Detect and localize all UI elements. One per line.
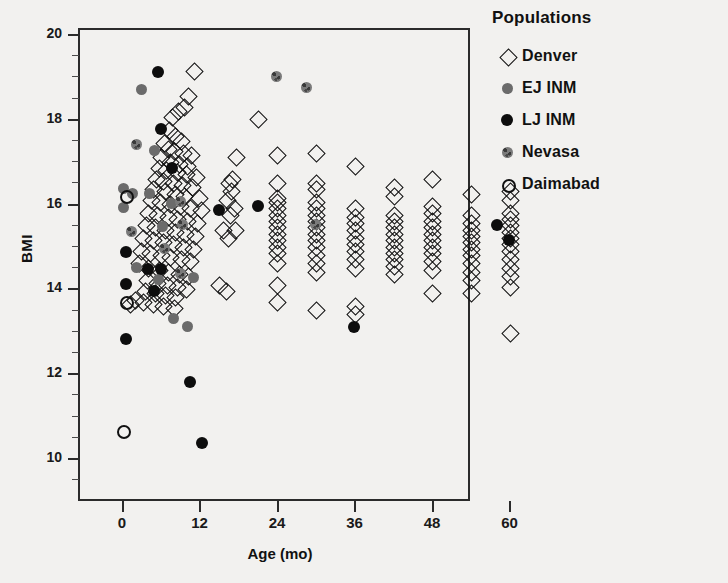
x-tick-label: 36: [331, 514, 377, 531]
data-point-lj-inm: [491, 219, 503, 231]
data-point-nevasa: [159, 243, 170, 254]
y-tick: [68, 119, 80, 121]
data-point-denver: [501, 325, 519, 343]
y-tick: [68, 34, 80, 36]
scatter-plot: BMI Age (mo) 101214161820 01224364860 Po…: [0, 0, 728, 583]
data-point-nevasa: [301, 82, 312, 93]
y-minor-tick: [72, 352, 79, 353]
legend: Populations DenverEJ INMLJ INMNevasaDaim…: [492, 8, 722, 200]
legend-item-lj-inm[interactable]: LJ INM: [492, 104, 722, 136]
y-minor-tick: [72, 267, 79, 268]
data-point-nevasa: [126, 226, 137, 237]
x-axis-title: Age (mo): [190, 545, 370, 562]
x-tick: [432, 501, 434, 512]
x-tick-label: 0: [99, 514, 145, 531]
data-point-lj-inm: [120, 278, 132, 290]
legend-item-ej-inm[interactable]: EJ INM: [492, 72, 722, 104]
y-minor-tick: [72, 416, 79, 417]
y-minor-tick: [72, 161, 79, 162]
data-point-lj-inm: [252, 200, 264, 212]
data-point-nevasa: [131, 139, 142, 150]
legend-label: Nevasa: [522, 143, 579, 161]
legend-item-denver[interactable]: Denver: [492, 40, 722, 72]
y-tick-label: 14: [22, 279, 62, 295]
y-tick: [68, 458, 80, 460]
y-minor-tick: [72, 437, 79, 438]
data-point-lj-inm: [166, 162, 178, 174]
legend-label: Daimabad: [522, 175, 600, 193]
x-tick: [122, 501, 124, 512]
data-point-ej-inm: [144, 188, 155, 199]
open-diamond-icon: [492, 46, 522, 66]
x-tick: [354, 501, 356, 512]
data-point-ej-inm: [188, 272, 199, 283]
y-tick: [68, 373, 80, 375]
y-minor-tick: [72, 182, 79, 183]
y-minor-tick: [72, 140, 79, 141]
y-minor-tick: [72, 331, 79, 332]
y-tick-label: 18: [22, 110, 62, 126]
data-point-ej-inm: [157, 221, 168, 232]
data-point-nevasa: [175, 268, 186, 279]
legend-label: Denver: [522, 47, 577, 65]
y-minor-tick: [72, 479, 79, 480]
x-tick-label: 12: [176, 514, 222, 531]
data-point-lj-inm: [213, 204, 225, 216]
data-point-ej-inm: [136, 84, 147, 95]
data-point-ej-inm: [131, 262, 142, 273]
open-circle-icon: [492, 174, 522, 194]
data-point-daimabad: [120, 296, 134, 310]
y-tick: [68, 288, 80, 290]
speckled-circle-icon: [492, 142, 522, 162]
legend-label: LJ INM: [522, 111, 576, 129]
y-axis-title: BMI: [18, 209, 35, 289]
y-minor-tick: [72, 246, 79, 247]
legend-item-daimabad[interactable]: Daimabad: [492, 168, 722, 200]
y-minor-tick: [72, 310, 79, 311]
legend-items: DenverEJ INMLJ INMNevasaDaimabad: [492, 40, 722, 200]
y-tick: [68, 204, 80, 206]
x-tick: [199, 501, 201, 512]
x-tick: [509, 501, 511, 512]
x-tick: [277, 501, 279, 512]
x-tick-label: 24: [254, 514, 300, 531]
y-tick-label: 20: [22, 25, 62, 41]
y-minor-tick: [72, 55, 79, 56]
y-tick-label: 12: [22, 364, 62, 380]
data-point-nevasa: [175, 196, 186, 207]
y-minor-tick: [72, 394, 79, 395]
data-point-daimabad: [120, 190, 134, 204]
data-point-denver: [501, 278, 519, 296]
black-circle-icon: [492, 110, 522, 130]
data-point-lj-inm: [348, 321, 360, 333]
data-point-ej-inm: [149, 145, 160, 156]
data-point-ej-inm: [168, 313, 179, 324]
x-tick-label: 60: [486, 514, 532, 531]
legend-label: EJ INM: [522, 79, 577, 97]
x-tick-label: 48: [409, 514, 455, 531]
data-point-lj-inm: [155, 263, 167, 275]
y-minor-tick: [72, 76, 79, 77]
legend-title: Populations: [492, 8, 722, 28]
y-tick-label: 10: [22, 449, 62, 465]
legend-item-nevasa[interactable]: Nevasa: [492, 136, 722, 168]
y-tick-label: 16: [22, 195, 62, 211]
gray-circle-icon: [492, 78, 522, 98]
y-minor-tick: [72, 98, 79, 99]
data-point-lj-inm: [148, 285, 160, 297]
y-minor-tick: [72, 225, 79, 226]
